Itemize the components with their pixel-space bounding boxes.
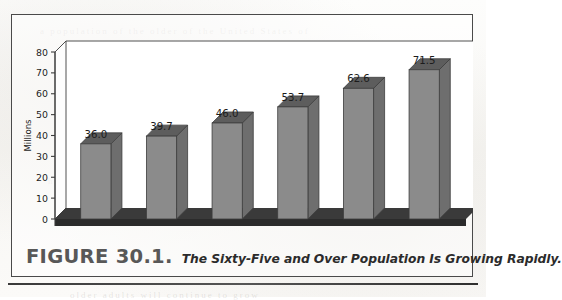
bar-2025[interactable]: 62.6 bbox=[343, 73, 384, 219]
bar-side-face bbox=[374, 77, 385, 219]
y-axis-tick-label: 70 bbox=[36, 67, 48, 78]
bar-side-face bbox=[111, 133, 122, 219]
y-axis-tick-label: 40 bbox=[36, 130, 48, 141]
ghost-text-line: older adults will continue to grow bbox=[70, 290, 260, 300]
bar-value-label: 39.7 bbox=[150, 121, 173, 132]
bar-2010[interactable]: 39.7 bbox=[146, 121, 187, 219]
bar-2030[interactable]: 71.5 bbox=[409, 55, 450, 219]
y-axis-tick-label: 20 bbox=[36, 172, 48, 183]
figure-title: The Sixty-Five and Over Population Is Gr… bbox=[182, 252, 562, 266]
y-axis-tick-label: 30 bbox=[36, 151, 48, 162]
bar-front-face bbox=[278, 107, 308, 219]
bar-front-face bbox=[146, 136, 176, 219]
bar-2015[interactable]: 46.0 bbox=[212, 108, 253, 219]
y-axis-title: Millions bbox=[23, 119, 33, 152]
bar-front-face bbox=[409, 70, 439, 219]
y-axis-tick-label: 0 bbox=[42, 214, 48, 225]
bar-side-face bbox=[177, 125, 188, 219]
plot-left-wall bbox=[55, 41, 66, 219]
bar-front-face bbox=[343, 88, 373, 219]
bar-chart: 01020304050607080Millions36.0200439.7201… bbox=[11, 14, 473, 226]
figure-caption: FIGURE 30.1. The Sixty-Five and Over Pop… bbox=[26, 245, 466, 273]
bar-value-label: 71.5 bbox=[413, 55, 436, 66]
chart-canvas: 01020304050607080Millions36.0200439.7201… bbox=[11, 14, 473, 226]
bar-front-face bbox=[212, 123, 242, 219]
figure-number: FIGURE 30.1. bbox=[26, 245, 173, 268]
bar-front-face bbox=[81, 144, 111, 219]
y-axis-tick-label: 80 bbox=[36, 47, 48, 58]
y-axis-tick-label: 50 bbox=[36, 109, 48, 120]
bar-value-label: 53.7 bbox=[281, 92, 304, 103]
page-bottom-rule bbox=[8, 283, 478, 285]
bar-side-face bbox=[439, 59, 450, 219]
bar-value-label: 46.0 bbox=[216, 108, 239, 119]
plot-floor-front bbox=[55, 219, 466, 226]
bar-value-label: 62.6 bbox=[347, 73, 370, 84]
bar-side-face bbox=[308, 96, 319, 219]
bar-value-label: 36.0 bbox=[84, 129, 107, 140]
y-axis-tick-label: 10 bbox=[36, 193, 48, 204]
bar-2020[interactable]: 53.7 bbox=[278, 92, 319, 219]
bar-side-face bbox=[242, 112, 253, 219]
y-axis-tick-label: 60 bbox=[36, 88, 48, 99]
bar-2004[interactable]: 36.0 bbox=[81, 129, 122, 219]
